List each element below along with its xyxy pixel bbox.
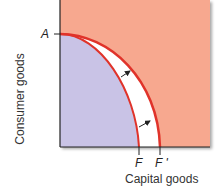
ppf-diagram [0, 0, 220, 191]
curve-f-label: F [135, 156, 142, 170]
y-axis-label: Consumer goods [13, 51, 27, 147]
x-axis-label: Capital goods [125, 172, 198, 186]
curve-f-prime-label: F ' [155, 156, 168, 170]
point-a-label: A [41, 27, 49, 41]
